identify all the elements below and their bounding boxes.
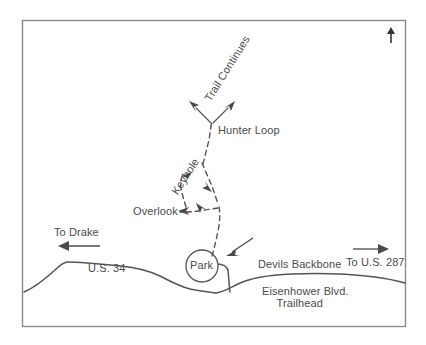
label-devils-backbone-line-1: Devils Backbone xyxy=(258,258,341,271)
arrow-overlook-icon xyxy=(178,207,189,215)
trail-segment-hunter-loop-left-arm xyxy=(196,108,211,123)
arrow-to-us-287-icon xyxy=(378,244,389,254)
callout-line-devils-backbone xyxy=(232,238,253,252)
label-park: Park xyxy=(190,259,213,272)
label-devils-backbone-trailhead: Devils Backbone Trailhead xyxy=(258,232,341,336)
trail-segment-keyhole-to-hunter-loop xyxy=(203,120,212,164)
trail-segment-hunter-loop-right-arm xyxy=(213,108,228,123)
map-border xyxy=(23,21,406,327)
road-park-spur xyxy=(217,264,230,292)
arrow-hunter-loop-right-icon xyxy=(224,101,235,111)
trail-segment-keyhole-right xyxy=(202,163,218,204)
trail-segment-trailhead-to-overlook xyxy=(212,206,220,256)
label-to-us-287: To U.S. 287 xyxy=(346,256,405,269)
label-overlook: Overlook xyxy=(133,205,178,218)
label-devils-backbone-line-2: Trailhead xyxy=(258,297,341,310)
label-to-drake: To Drake xyxy=(54,226,99,239)
map-canvas xyxy=(0,0,426,345)
label-hunter-loop: Hunter Loop xyxy=(218,124,280,137)
label-eisenhower-blvd: Eisenhower Blvd. xyxy=(262,285,349,298)
label-us-34: U.S. 34 xyxy=(88,262,125,275)
arrow-hunter-loop-left-icon xyxy=(189,101,199,112)
arrow-to-drake-icon xyxy=(58,241,69,251)
trail-map: Trail Continues Hunter Loop Keyhole Over… xyxy=(0,0,426,345)
north-arrow-icon xyxy=(387,27,395,43)
